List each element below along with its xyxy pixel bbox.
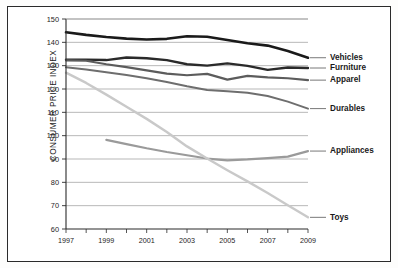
series-label-furniture: Furniture (330, 63, 366, 72)
y-tick-label: 100 (47, 131, 59, 140)
y-tick-label: 80 (51, 178, 59, 187)
x-tick-label: 2009 (300, 236, 316, 245)
series-label-durables: Durables (330, 104, 365, 113)
y-tick-label: 150 (47, 15, 59, 24)
chart-figure: CONSUMER PRICE INDEX 6070809010011012013… (0, 0, 398, 268)
y-tick-label: 60 (51, 225, 59, 234)
x-tick-label: 2001 (139, 236, 155, 245)
series-group (66, 32, 308, 217)
y-tick-label: 110 (47, 108, 59, 117)
y-tick-label: 90 (51, 155, 59, 164)
chart-frame: CONSUMER PRICE INDEX 6070809010011012013… (7, 6, 391, 262)
x-tick-label: 1999 (98, 236, 114, 245)
series-line-toys (66, 73, 308, 218)
series-label-toys: Toys (330, 213, 349, 222)
series-line-durables (66, 67, 308, 108)
series-label-vehicles: Vehicles (330, 53, 363, 62)
y-tick-label: 120 (47, 85, 59, 94)
x-tick-label: 1997 (58, 236, 74, 245)
x-tick-label: 2007 (260, 236, 276, 245)
y-tick-label: 70 (51, 201, 59, 210)
y-tick-label: 140 (47, 38, 59, 47)
series-line-vehicles (66, 32, 308, 57)
series-labels-group: VehiclesFurnitureApparelDurablesApplianc… (310, 53, 374, 222)
y-tick-labels-group: 60708090100110120130140150 (47, 15, 59, 234)
axes-group (62, 19, 308, 233)
series-label-appliances: Appliances (330, 146, 374, 155)
series-label-apparel: Apparel (330, 75, 360, 84)
x-tick-label: 2003 (179, 236, 195, 245)
x-tick-labels-group: 1997199920012003200520072009 (58, 236, 316, 245)
line-chart-plot: 60708090100110120130140150 1997199920012… (8, 7, 392, 263)
x-tick-label: 2005 (219, 236, 235, 245)
y-tick-label: 130 (47, 61, 59, 70)
